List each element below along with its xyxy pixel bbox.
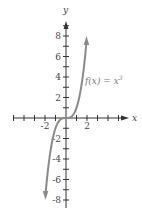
- curve-arrow-down-icon: [43, 191, 49, 200]
- x-axis-label: x: [132, 113, 137, 123]
- y-tick-label: 2: [55, 93, 61, 103]
- y-tick-label: -8: [52, 195, 61, 205]
- y-tick-label: 8: [55, 31, 61, 41]
- y-axis-label: y: [62, 5, 69, 15]
- cubic-function-graph: -228642-2-4-6-8 x y f(x) = x3: [0, 0, 142, 218]
- function-label-text: f(x) = x: [84, 76, 119, 86]
- axes: [14, 21, 129, 208]
- y-tick-label: 6: [55, 52, 61, 62]
- x-tick-label: 2: [84, 121, 90, 131]
- function-label-exponent: 3: [119, 74, 123, 81]
- y-tick-label: 4: [55, 72, 61, 82]
- x-axis-arrow-icon: [121, 116, 129, 121]
- y-tick-label: -4: [52, 154, 61, 164]
- y-axis-arrow-icon: [64, 21, 69, 29]
- function-label: f(x) = x3: [84, 74, 123, 86]
- y-tick-label: -6: [52, 175, 61, 185]
- curve-arrow-up-icon: [84, 36, 90, 45]
- x-tick-label: -2: [41, 121, 50, 131]
